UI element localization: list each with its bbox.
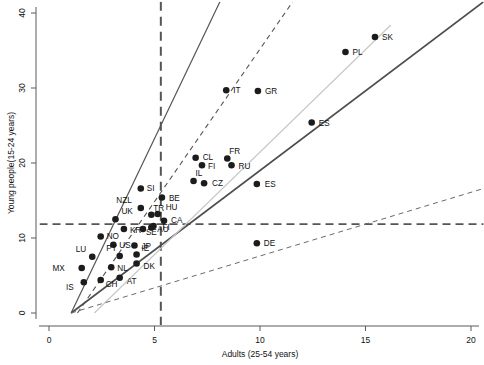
data-point-label-ch: CH: [106, 280, 118, 289]
data-point-si[interactable]: [137, 185, 144, 192]
data-point-label-sk: SK: [382, 33, 393, 42]
data-point-label-si: SI: [147, 184, 155, 193]
data-point-label-es2: ES: [319, 119, 330, 128]
y-tick-label-10: 10: [17, 233, 27, 243]
data-point-label-ru: RU: [239, 162, 251, 171]
data-point-fi[interactable]: [150, 223, 157, 230]
data-point-label-fr: FR: [229, 147, 240, 156]
data-point-pt[interactable]: [116, 253, 123, 260]
data-point-es[interactable]: [254, 181, 261, 188]
data-point-uk[interactable]: [112, 216, 119, 223]
x-axis-title: Adults (25-54 years): [222, 349, 299, 359]
y-tick-label-30: 30: [17, 83, 27, 93]
y-axis-title: Young people(15-24 years): [6, 112, 16, 214]
data-point-pl[interactable]: [342, 49, 349, 56]
data-point-label-jp: JP: [141, 242, 151, 251]
data-point-label-cl: CL: [203, 153, 214, 162]
plot-canvas: ISMXLUCHNLATNOUSPTIEDKJPKRUKSEAUFINZLTRH…: [0, 0, 484, 365]
data-point-be[interactable]: [159, 194, 166, 201]
data-point-label-kr: KR: [130, 226, 141, 235]
data-point-ie[interactable]: [133, 251, 140, 258]
data-point-label-be: BE: [169, 194, 180, 203]
data-point-label-hu: HU: [166, 203, 178, 212]
data-point-hu[interactable]: [154, 211, 161, 218]
x-tick-label-10: 10: [255, 335, 265, 345]
ratio-line-mid-solid: [71, 2, 484, 313]
data-point-label-uk: UK: [121, 207, 133, 216]
data-point-label-us: US: [119, 241, 131, 250]
data-point-dk[interactable]: [133, 260, 140, 267]
data-point-at[interactable]: [116, 274, 123, 281]
data-point-label-il: IL: [196, 169, 203, 178]
data-point-label-fi2: FI: [208, 162, 215, 171]
data-point-il[interactable]: [190, 178, 197, 185]
data-point-label-fi: FI: [162, 223, 169, 232]
data-point-label-pt: PT: [106, 244, 116, 253]
y-tick-label-40: 40: [17, 8, 27, 18]
data-point-cl[interactable]: [192, 154, 199, 161]
data-point-label-at: AT: [127, 277, 137, 286]
data-point-nzl[interactable]: [137, 205, 144, 212]
data-point-kr[interactable]: [121, 226, 128, 233]
data-point-es2[interactable]: [308, 119, 315, 126]
reference-lines-group: [40, 2, 484, 325]
scatter-chart: ISMXLUCHNLATNOUSPTIEDKJPKRUKSEAUFINZLTRH…: [0, 0, 484, 365]
data-point-ru[interactable]: [228, 162, 235, 169]
data-point-label-gr: GR: [265, 87, 277, 96]
data-point-lu[interactable]: [89, 253, 96, 260]
data-point-sk[interactable]: [372, 34, 379, 41]
data-point-label-no: NO: [107, 232, 119, 241]
data-point-label-es: ES: [265, 180, 276, 189]
ratio-line-shallow-dashed: [71, 189, 484, 314]
data-point-ca[interactable]: [161, 217, 168, 224]
data-point-no[interactable]: [97, 233, 104, 240]
data-point-mx[interactable]: [78, 265, 85, 272]
data-point-gr[interactable]: [255, 88, 262, 95]
data-point-jp[interactable]: [131, 242, 138, 249]
data-point-label-ca: CA: [171, 216, 183, 225]
data-point-label-dk: DK: [144, 262, 156, 271]
data-point-label-nzl: NZL: [116, 196, 132, 205]
data-point-label-nl: NL: [117, 264, 128, 273]
data-point-label-it: IT: [233, 86, 240, 95]
x-tick-label-20: 20: [466, 335, 476, 345]
data-point-label-cz: CZ: [212, 179, 223, 188]
data-point-it[interactable]: [223, 87, 230, 94]
data-point-fi2[interactable]: [199, 162, 206, 169]
data-point-label-is: IS: [66, 283, 74, 292]
data-point-ch[interactable]: [97, 277, 104, 284]
data-point-label-de: DE: [264, 239, 276, 248]
x-tick-label-0: 0: [47, 335, 52, 345]
data-point-label-pl: PL: [352, 48, 362, 57]
x-tick-label-5: 5: [152, 335, 157, 345]
data-point-label-mx: MX: [52, 264, 65, 273]
data-point-label-lu: LU: [76, 245, 87, 254]
data-point-nl[interactable]: [108, 264, 115, 271]
y-tick-label-0: 0: [17, 310, 27, 315]
data-point-fr[interactable]: [224, 155, 231, 162]
y-tick-label-20: 20: [17, 158, 27, 168]
data-point-is[interactable]: [81, 279, 88, 286]
data-point-cz[interactable]: [201, 180, 208, 187]
data-point-de[interactable]: [254, 240, 261, 247]
x-tick-label-15: 15: [361, 335, 371, 345]
